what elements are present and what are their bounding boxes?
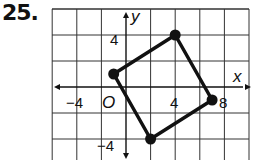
x-axis-arrow-left-icon	[54, 84, 60, 90]
coordinate-grid: xyO−4484−4	[0, 0, 256, 160]
y-tick-label: 4	[110, 31, 118, 48]
x-tick-label: 8	[219, 94, 227, 111]
x-axis-arrow-right-icon	[245, 84, 251, 90]
y-axis-label: y	[130, 7, 141, 26]
x-tick-label: −4	[66, 94, 83, 111]
origin-label: O	[102, 93, 115, 112]
x-tick-label: 4	[170, 94, 178, 111]
vertex-point	[145, 134, 156, 145]
y-tick-label: −4	[97, 137, 114, 154]
vertex-point	[108, 69, 119, 80]
vertex-point	[207, 95, 218, 106]
y-axis-arrow-down-icon	[123, 153, 129, 159]
vertex-point	[170, 30, 181, 41]
y-axis-arrow-up-icon	[123, 12, 129, 18]
x-axis-label: x	[232, 67, 242, 86]
